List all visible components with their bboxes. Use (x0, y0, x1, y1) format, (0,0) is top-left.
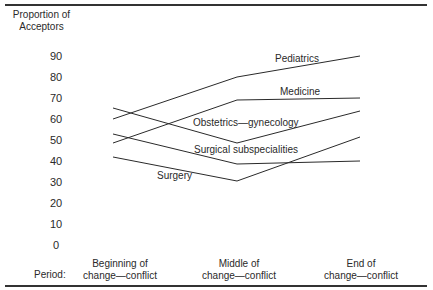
bottom-rule (5, 285, 427, 287)
category-end: End of change—conflict (306, 258, 416, 282)
plot-area: Pediatrics Medicine Obstetrics—gynecolog… (0, 0, 433, 290)
category-end-line2: change—conflict (306, 270, 416, 282)
category-end-line1: End of (306, 258, 416, 270)
label-obstetrics-gynecology: Obstetrics—gynecology (193, 117, 299, 128)
category-beginning: Beginning of change—conflict (65, 258, 175, 282)
label-medicine: Medicine (280, 86, 320, 97)
category-beginning-line1: Beginning of (65, 258, 175, 270)
period-label: Period: (34, 269, 66, 280)
label-pediatrics: Pediatrics (275, 53, 319, 64)
line-pediatrics (113, 56, 360, 119)
category-beginning-line2: change—conflict (65, 270, 175, 282)
category-middle-line2: change—conflict (184, 270, 294, 282)
category-middle-line1: Middle of (184, 258, 294, 270)
label-surgical-subspecialities: Surgical subspecialities (194, 144, 298, 155)
label-surgery: Surgery (157, 170, 192, 181)
category-middle: Middle of change—conflict (184, 258, 294, 282)
